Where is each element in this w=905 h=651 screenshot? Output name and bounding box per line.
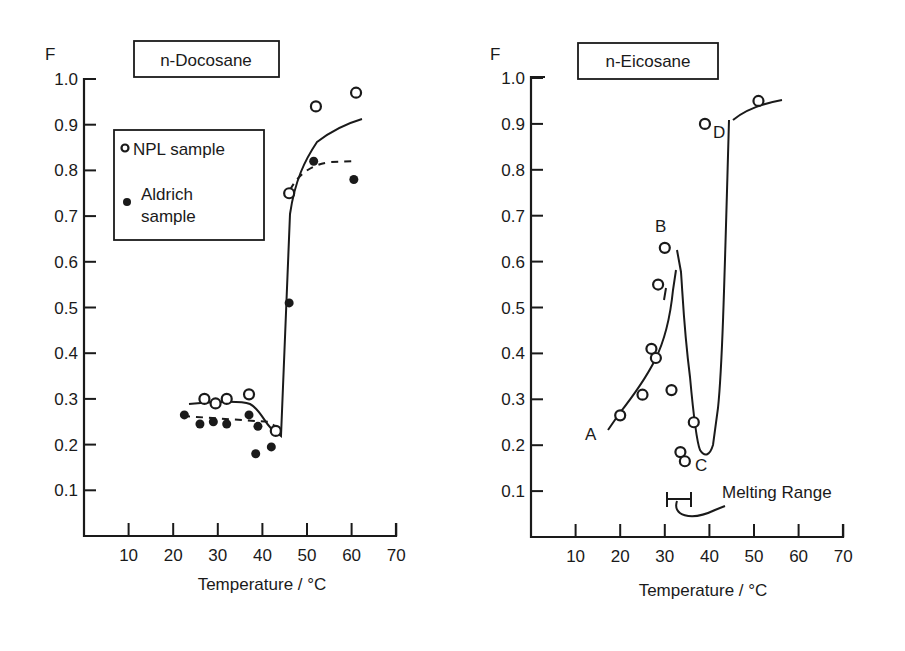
y-tick-label: 0.8 xyxy=(501,161,525,180)
filled-circle-data-point xyxy=(251,449,260,458)
legend-aldrich-label-1: Aldrich xyxy=(141,185,193,204)
point-label-b: B xyxy=(655,217,666,236)
x-tick-label: 40 xyxy=(700,547,719,566)
filled-circle-data-point xyxy=(222,420,231,429)
left-chart-title: n-Docosane xyxy=(160,51,252,70)
filled-circle-data-point xyxy=(253,422,262,431)
y-tick-label: 0.7 xyxy=(501,207,525,226)
x-tick-label: 30 xyxy=(655,547,674,566)
right-data-points xyxy=(615,96,763,466)
open-circle-data-point xyxy=(651,353,661,363)
legend-aldrich-label-2: sample xyxy=(141,207,196,226)
left-x-ticks: 10203040506070 xyxy=(119,523,406,565)
point-label-d: D xyxy=(713,123,725,142)
filled-circle-data-point xyxy=(180,410,189,419)
y-tick-label: 0.1 xyxy=(54,481,78,500)
y-tick-label: 0.3 xyxy=(54,390,78,409)
y-tick-label: 0.6 xyxy=(501,253,525,272)
right-y-ticks: 0.10.20.30.40.50.60.70.80.91.0 xyxy=(501,69,543,501)
open-circle-data-point xyxy=(700,119,710,129)
y-tick-label: 0.4 xyxy=(54,344,78,363)
open-circle-data-point xyxy=(311,101,321,111)
point-label-a: A xyxy=(585,425,597,444)
open-circle-data-point xyxy=(244,389,254,399)
legend-filled-circle-icon xyxy=(123,198,131,206)
open-circle-data-point xyxy=(199,394,209,404)
open-circle-data-point xyxy=(271,426,281,436)
y-tick-label: 0.2 xyxy=(54,436,78,455)
open-circle-data-point xyxy=(680,456,690,466)
open-circle-data-point xyxy=(653,280,663,290)
y-tick-label: 0.1 xyxy=(501,482,525,501)
right-x-axis-label: Temperature / °C xyxy=(639,581,768,600)
x-tick-label: 70 xyxy=(834,547,853,566)
right-chart-eicosane: F n-Eicosane 0.10.20.30.40.50.60.70.80.9… xyxy=(490,43,853,600)
aldrich-fit-high-dashed xyxy=(290,161,356,190)
x-tick-label: 10 xyxy=(566,547,585,566)
y-tick-label: 0.5 xyxy=(501,299,525,318)
melting-range-label: Melting Range xyxy=(722,483,832,502)
melting-range-leader xyxy=(676,501,725,516)
right-x-ticks: 10203040506070 xyxy=(566,524,853,566)
open-circle-data-point xyxy=(660,243,670,253)
filled-circle-data-point xyxy=(195,420,204,429)
filled-circle-data-point xyxy=(209,417,218,426)
filled-circle-data-point xyxy=(245,410,254,419)
left-y-ticks: 0.10.20.30.40.50.60.70.80.91.0 xyxy=(54,70,96,500)
open-circle-data-point xyxy=(615,410,625,420)
melting-range-marker xyxy=(667,492,725,516)
point-label-c: C xyxy=(695,456,707,475)
x-tick-label: 70 xyxy=(387,546,406,565)
open-circle-data-point xyxy=(284,188,294,198)
y-tick-label: 0.8 xyxy=(54,161,78,180)
y-tick-label: 0.3 xyxy=(501,390,525,409)
left-chart-docosane: F n-Docosane 0.10.20.30.40.50.60.70.80.9… xyxy=(45,41,406,594)
filled-circle-data-point xyxy=(309,157,318,166)
filled-circle-data-point xyxy=(267,442,276,451)
open-circle-data-point xyxy=(666,385,676,395)
x-tick-label: 50 xyxy=(745,547,764,566)
y-tick-label: 0.6 xyxy=(54,253,78,272)
left-x-axis-label: Temperature / °C xyxy=(198,575,327,594)
chart-canvas: F n-Docosane 0.10.20.30.40.50.60.70.80.9… xyxy=(0,0,905,651)
filled-circle-data-point xyxy=(349,175,358,184)
legend-open-circle-icon xyxy=(122,145,129,152)
right-axes xyxy=(531,77,843,537)
x-tick-label: 60 xyxy=(342,546,361,565)
y-tick-label: 0.2 xyxy=(501,436,525,455)
x-tick-label: 20 xyxy=(164,546,183,565)
y-tick-label: 1.0 xyxy=(54,70,78,89)
x-tick-label: 40 xyxy=(253,546,272,565)
y-tick-label: 0.9 xyxy=(501,115,525,134)
open-circle-data-point xyxy=(753,96,763,106)
right-chart-title: n-Eicosane xyxy=(605,52,690,71)
filled-circle-data-point xyxy=(285,298,294,307)
legend-npl-label: NPL sample xyxy=(133,140,225,159)
y-tick-label: 0.7 xyxy=(54,207,78,226)
open-circle-data-point xyxy=(211,398,221,408)
y-tick-label: 0.9 xyxy=(54,116,78,135)
x-tick-label: 50 xyxy=(298,546,317,565)
x-tick-label: 20 xyxy=(611,547,630,566)
right-y-axis-label: F xyxy=(490,45,500,64)
x-tick-label: 10 xyxy=(119,546,138,565)
x-tick-label: 60 xyxy=(789,547,808,566)
open-circle-data-point xyxy=(638,390,648,400)
y-tick-label: 0.5 xyxy=(54,299,78,318)
open-circle-data-point xyxy=(689,417,699,427)
eicosane-fit-curve xyxy=(608,100,782,455)
y-tick-label: 1.0 xyxy=(501,69,525,88)
y-tick-label: 0.4 xyxy=(501,344,525,363)
left-y-axis-label: F xyxy=(45,45,55,64)
open-circle-data-point xyxy=(222,394,232,404)
x-tick-label: 30 xyxy=(208,546,227,565)
open-circle-data-point xyxy=(351,88,361,98)
